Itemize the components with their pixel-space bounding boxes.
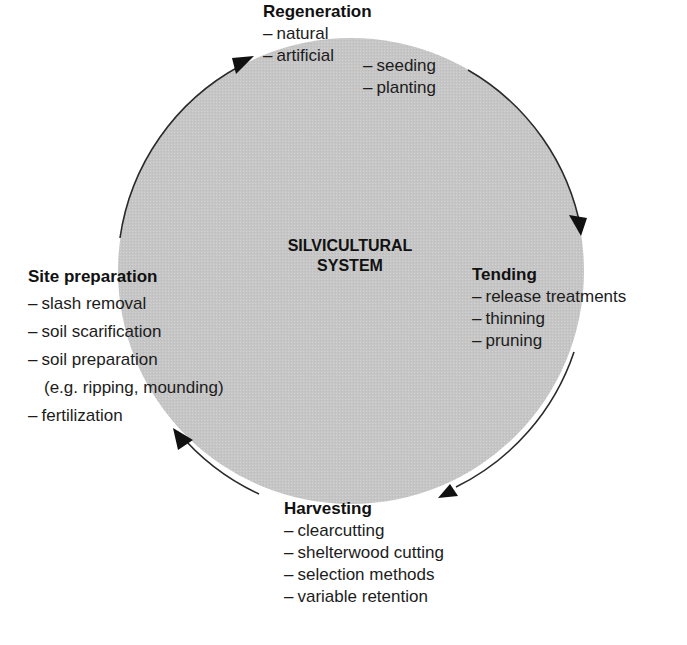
list-item: –natural: [263, 23, 372, 45]
list-item: –soil preparation: [28, 346, 224, 374]
center-label-line1: SILVICULTURAL: [250, 236, 450, 256]
stage-title: Tending: [472, 264, 626, 286]
center-label: SILVICULTURAL SYSTEM: [250, 236, 450, 276]
stage-regeneration: Regeneration –natural –artificial –seedi…: [263, 1, 372, 67]
arrowhead-icon: [438, 484, 458, 498]
list-item: –artificial: [263, 45, 372, 67]
stage-site-preparation: Site preparation –slash removal –soil sc…: [28, 264, 224, 430]
list-item: –soil scarification: [28, 318, 224, 346]
list-item: –thinning: [472, 308, 626, 330]
list-item: –seeding: [363, 55, 436, 77]
list-item: –release treatments: [472, 286, 626, 308]
list-item: –pruning: [472, 330, 626, 352]
list-item: –clearcutting: [284, 520, 444, 542]
list-item: –slash removal: [28, 290, 224, 318]
stage-tending: Tending –release treatments –thinning –p…: [472, 264, 626, 352]
list-item: –shelterwood cutting: [284, 542, 444, 564]
stage-title: Site preparation: [28, 264, 224, 290]
list-item: –planting: [363, 77, 436, 99]
list-item-continuation: (e.g. ripping, mounding): [28, 374, 224, 402]
list-item: –selection methods: [284, 564, 444, 586]
stage-title: Harvesting: [284, 498, 444, 520]
list-item: –fertilization: [28, 402, 224, 430]
center-label-line2: SYSTEM: [250, 256, 450, 276]
sub-list: –seeding –planting: [363, 55, 436, 99]
list-item: –variable retention: [284, 586, 444, 608]
stage-harvesting: Harvesting –clearcutting –shelterwood cu…: [284, 498, 444, 608]
stage-title: Regeneration: [263, 1, 372, 23]
